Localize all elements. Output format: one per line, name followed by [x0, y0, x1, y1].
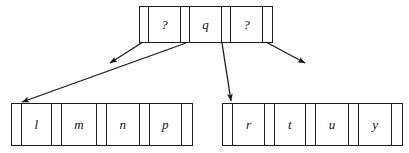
key-cell-leaf-left-l: l [22, 104, 52, 145]
pointer-cell-leaf-right-0 [223, 104, 233, 145]
leaf-node-left: lmnp [11, 103, 193, 146]
arrow-root-stub-left [110, 42, 143, 63]
arrow-root-to-leaf-right [222, 43, 231, 101]
pointer-cell-leaf-right-4 [306, 104, 316, 145]
diagram-canvas: ?q? lmnp rtuy [0, 0, 409, 153]
leaf-node-right: rtuy [222, 103, 403, 146]
key-cell-leaf-right-u: u [316, 104, 350, 145]
key-cell-leaf-left-p: p [150, 104, 183, 145]
key-cell-root-?: ? [149, 7, 181, 42]
pointer-cell-root-0 [140, 7, 149, 42]
pointer-cell-leaf-right-8 [392, 104, 402, 145]
key-cell-leaf-right-r: r [233, 104, 265, 145]
pointer-cell-leaf-left-2 [52, 104, 62, 145]
pointer-cell-leaf-left-4 [97, 104, 107, 145]
arrow-root-to-leaf-left [22, 43, 186, 102]
key-cell-root-?: ? [231, 7, 263, 42]
key-cell-leaf-right-y: y [359, 104, 392, 145]
arrow-root-stub-right [266, 42, 305, 63]
pointer-cell-leaf-left-8 [182, 104, 192, 145]
pointer-cell-root-4 [222, 7, 231, 42]
pointer-cell-leaf-right-2 [265, 104, 275, 145]
key-cell-leaf-left-n: n [107, 104, 140, 145]
key-cell-leaf-right-t: t [275, 104, 306, 145]
key-cell-root-q: q [190, 7, 222, 42]
pointer-cell-root-2 [181, 7, 190, 42]
pointer-cell-leaf-left-6 [140, 104, 150, 145]
pointer-cell-leaf-left-0 [12, 104, 22, 145]
internal-node-root: ?q? [139, 6, 273, 43]
pointer-cell-leaf-right-6 [349, 104, 359, 145]
pointer-cell-root-6 [263, 7, 272, 42]
key-cell-leaf-left-m: m [62, 104, 97, 145]
